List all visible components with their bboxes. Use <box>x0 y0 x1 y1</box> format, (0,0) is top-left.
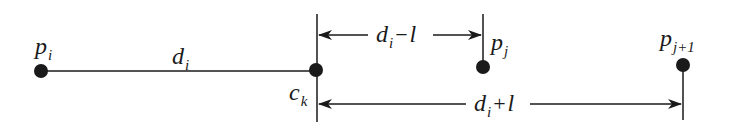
label-pj1-sub: j+1 <box>673 39 695 55</box>
label-pi: pi <box>35 34 52 58</box>
diagram-canvas <box>0 0 732 136</box>
label-pj-main: p <box>491 29 503 55</box>
label-pj-sub: j <box>504 43 508 59</box>
label-ck-sub: k <box>301 93 308 109</box>
label-pi-main: p <box>35 33 47 59</box>
label-ck-main: c <box>289 79 300 105</box>
lower-dim-op: + <box>493 91 505 116</box>
point-pi-dot <box>34 64 48 78</box>
label-di-main: d <box>172 43 184 69</box>
point-pj-dot <box>476 60 490 74</box>
label-pi-sub: i <box>48 47 52 63</box>
point-pj1-dot <box>676 58 690 72</box>
upper-dim-main: d <box>376 21 388 47</box>
label-di: di <box>172 44 189 68</box>
lower-dim-main: d <box>474 90 486 116</box>
label-pj1-main: p <box>660 25 672 51</box>
label-pj: pj <box>491 30 508 54</box>
upper-dim-tail: l <box>410 21 417 47</box>
lower-dim-sub: i <box>487 104 491 120</box>
label-di-sub: i <box>185 57 189 73</box>
lower-dim-tail: l <box>508 90 515 116</box>
label-ck: ck <box>289 80 307 104</box>
label-lower-dimension: di+l <box>474 91 514 115</box>
label-upper-dimension: di−l <box>376 22 416 46</box>
label-pj1: pj+1 <box>660 26 695 50</box>
point-ck-dot <box>309 63 323 77</box>
upper-dim-op: − <box>395 22 407 47</box>
upper-dim-sub: i <box>389 35 393 51</box>
